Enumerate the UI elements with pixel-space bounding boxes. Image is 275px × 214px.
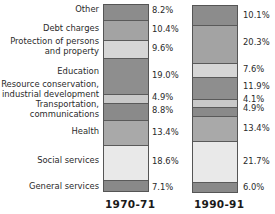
x-label-1990-91: 1990-91	[194, 198, 244, 210]
value-1970-debt: 10.4%	[152, 24, 179, 34]
seg-transportation	[104, 103, 148, 120]
seg-transportation	[193, 107, 237, 116]
label-resource: Resource conservation, industrial develo…	[1, 80, 99, 99]
seg-debt-charges	[104, 20, 148, 40]
label-health: Health	[71, 127, 99, 137]
value-1990-general: 6.0%	[243, 182, 264, 192]
value-1990-other: 10.1%	[243, 10, 270, 20]
label-education: Education	[57, 67, 99, 77]
value-1970-other: 8.2%	[152, 5, 173, 15]
seg-protection	[104, 40, 148, 58]
value-1990-social: 21.7%	[243, 156, 270, 166]
label-general-services: General services	[29, 182, 99, 192]
value-1970-health: 13.4%	[152, 127, 179, 137]
seg-resource	[193, 99, 237, 107]
x-label-1970-71: 1970-71	[105, 198, 155, 210]
seg-education	[104, 58, 148, 94]
value-1970-general: 7.1%	[152, 182, 173, 192]
value-1990-debt: 20.3%	[243, 37, 270, 47]
label-social-services: Social services	[37, 156, 99, 166]
label-transportation: Transportation, communications	[30, 100, 99, 119]
label-transportation-line2: communications	[30, 110, 99, 120]
label-other: Other	[75, 5, 99, 15]
value-1990-transportation: 4.9%	[243, 103, 264, 113]
seg-health	[104, 120, 148, 145]
seg-general-services	[104, 180, 148, 191]
value-1990-health: 13.4%	[243, 123, 270, 133]
label-protection-line2: and property	[10, 47, 99, 57]
seg-social-services	[193, 141, 237, 182]
value-1970-education: 19.0%	[152, 70, 179, 80]
seg-other	[104, 5, 148, 20]
value-1990-protection: 7.6%	[243, 64, 264, 74]
value-1970-transportation: 8.8%	[152, 105, 173, 115]
seg-social-services	[104, 145, 148, 180]
seg-other	[193, 6, 237, 25]
value-1970-social: 18.6%	[152, 156, 179, 166]
bar-1990-91	[192, 5, 238, 193]
seg-general-services	[193, 182, 237, 192]
seg-protection	[193, 63, 237, 77]
seg-health	[193, 116, 237, 141]
label-resource-line2: industrial development	[1, 90, 99, 100]
bar-1970-71	[103, 4, 149, 192]
value-1970-protection: 9.6%	[152, 43, 173, 53]
label-protection: Protection of persons and property	[10, 37, 99, 56]
value-1970-resource: 4.9%	[152, 92, 173, 102]
value-1990-education: 11.9%	[243, 81, 270, 91]
seg-education	[193, 77, 237, 99]
seg-resource	[104, 94, 148, 103]
label-debt-charges: Debt charges	[43, 24, 99, 34]
seg-debt-charges	[193, 25, 237, 63]
